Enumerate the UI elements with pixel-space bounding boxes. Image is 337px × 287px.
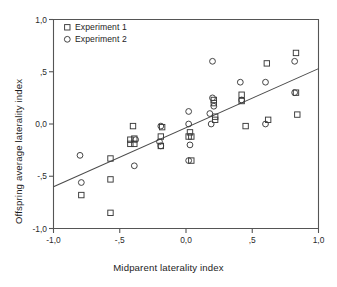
- figure-root: -1,0-,50,0,51,0-1,0-,50,0,51,0 Experimen…: [0, 0, 337, 287]
- data-point-experiment-2: [210, 58, 216, 64]
- data-point-experiment-2: [131, 163, 137, 169]
- data-point-experiment-1: [295, 112, 300, 117]
- x-tick-label: -1,0: [46, 235, 61, 245]
- data-point-experiment-1: [265, 117, 270, 122]
- data-point-experiment-1: [79, 192, 84, 197]
- x-tick-label: 1,0: [313, 235, 325, 245]
- data-point-experiment-1: [130, 123, 135, 128]
- y-axis-title: Offspring average laterality index: [13, 79, 24, 224]
- x-tick-label: 0,0: [180, 235, 192, 245]
- y-tick-label: ,5: [40, 67, 47, 77]
- data-point-experiment-2: [78, 180, 84, 186]
- legend-label-experiment-2: Experiment 2: [75, 34, 127, 46]
- data-point-experiment-2: [77, 152, 83, 158]
- scatter-plot-canvas: -1,0-,50,0,51,0-1,0-,50,0,51,0: [0, 0, 337, 287]
- data-point-experiment-1: [108, 210, 113, 215]
- x-tick-label: ,5: [249, 235, 256, 245]
- data-point-experiment-1: [243, 123, 248, 128]
- circle-marker-icon: [62, 34, 75, 45]
- legend-item-experiment-1: Experiment 1: [62, 22, 127, 34]
- data-point-experiment-2: [187, 142, 193, 148]
- y-tick-label: -,5: [37, 171, 47, 181]
- data-point-experiment-2: [208, 121, 214, 127]
- data-point-experiment-2: [237, 79, 243, 85]
- square-marker-icon: [62, 22, 75, 33]
- y-tick-label: 1,0: [35, 15, 47, 25]
- data-point-experiment-1: [108, 177, 113, 182]
- legend: Experiment 1 Experiment 2: [62, 22, 127, 45]
- data-point-experiment-2: [210, 95, 216, 101]
- x-tick-label: -,5: [115, 235, 125, 245]
- data-point-experiment-1: [293, 50, 298, 55]
- data-point-experiment-2: [186, 109, 192, 115]
- y-tick-label: 0,0: [35, 119, 47, 129]
- legend-item-experiment-2: Experiment 2: [62, 34, 127, 46]
- y-tick-label: -1,0: [33, 224, 48, 234]
- data-point-experiment-2: [207, 111, 213, 117]
- legend-label-experiment-1: Experiment 1: [75, 22, 127, 34]
- x-axis-title: Midparent laterality index: [0, 262, 337, 273]
- data-point-experiment-2: [263, 79, 269, 85]
- data-point-experiment-2: [292, 58, 298, 64]
- data-point-experiment-1: [264, 61, 269, 66]
- data-point-experiment-2: [292, 90, 298, 96]
- regression-line: [54, 69, 319, 187]
